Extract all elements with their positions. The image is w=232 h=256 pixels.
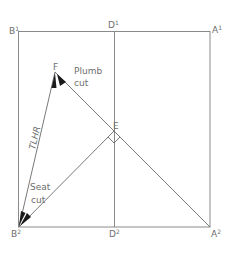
- label-f: F: [53, 62, 58, 72]
- seat-cut-label-line2: cut: [31, 195, 46, 205]
- plumb-cut-line: [55, 72, 210, 227]
- arrow-plumb-at-f: [57, 74, 66, 86]
- label-e: E: [113, 121, 119, 131]
- label-a1: A1: [212, 24, 222, 35]
- plumb-cut-label-line2: cut: [74, 78, 89, 88]
- hip-rafter-diagram: B1 D1 A1 B2 D2 A2 E F Plumb cut Seat cut…: [0, 0, 232, 256]
- seat-cut-label-line1: Seat: [30, 182, 51, 192]
- label-b2: B2: [11, 228, 21, 239]
- label-d1: D1: [108, 19, 119, 30]
- plumb-cut-label-line1: Plumb: [74, 66, 102, 76]
- label-d2: D2: [109, 228, 120, 239]
- label-a2: A2: [211, 228, 221, 239]
- label-b1: B1: [9, 25, 19, 36]
